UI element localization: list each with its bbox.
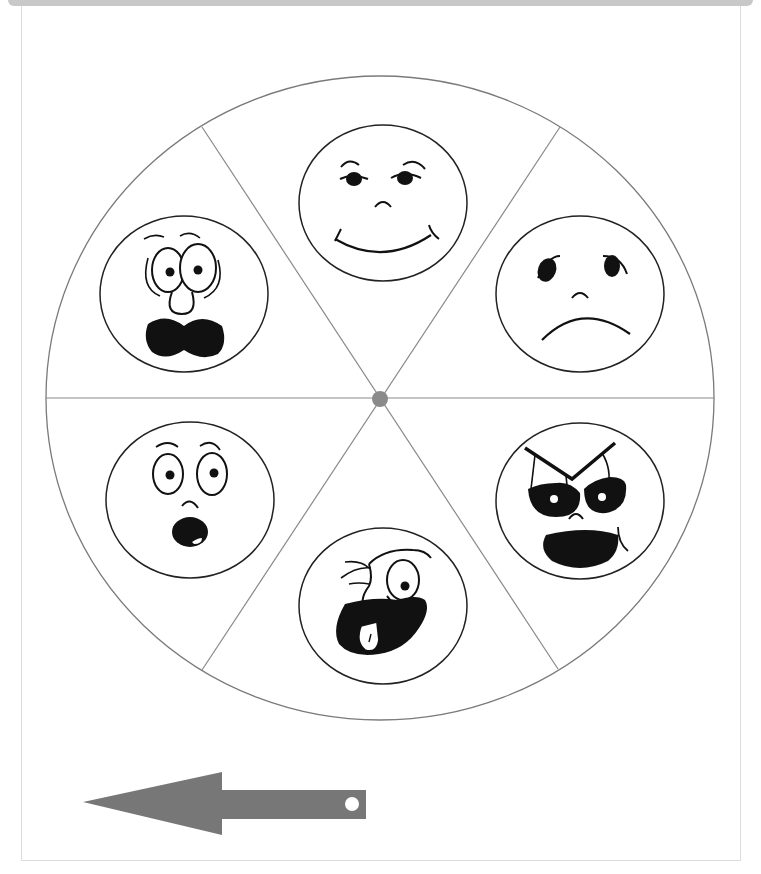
scared-face-icon [100,216,268,372]
wheel-hub[interactable] [372,391,388,407]
arrow-left-icon[interactable] [83,772,366,835]
silly-face-icon [299,528,467,684]
sad-face-icon [496,216,664,372]
angry-face-icon [496,423,664,579]
happy-face-icon [299,125,467,281]
spinner-worksheet [0,0,761,874]
surprised-face-icon [106,422,274,578]
